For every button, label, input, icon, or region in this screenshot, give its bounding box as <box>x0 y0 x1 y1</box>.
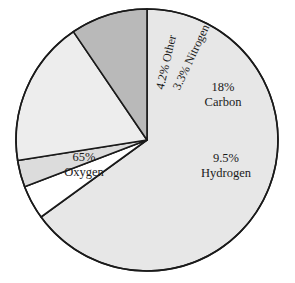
slice-percent-carbon: 18% <box>183 80 263 95</box>
pie-chart-svg <box>0 0 295 283</box>
slice-percent-hydrogen: 9.5% <box>181 151 271 166</box>
slice-label-carbon: 18% Carbon <box>183 80 263 110</box>
slice-name-oxygen: Oxygen <box>40 165 128 180</box>
slice-name-carbon: Carbon <box>183 95 263 110</box>
pie-chart: 65% Oxygen 4.2% Other 3.3% Nitrogen 18% … <box>0 0 295 283</box>
slice-name-hydrogen: Hydrogen <box>181 166 271 181</box>
slice-percent-oxygen: 65% <box>40 150 128 165</box>
pie-slice-group <box>16 9 278 271</box>
slice-label-hydrogen: 9.5% Hydrogen <box>181 151 271 181</box>
slice-label-oxygen: 65% Oxygen <box>40 150 128 180</box>
